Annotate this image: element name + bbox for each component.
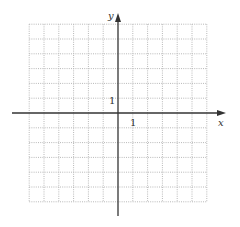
x-axis-arrow-icon xyxy=(217,110,226,116)
x-tick-label: 1 xyxy=(130,117,136,128)
coordinate-plane: x y 1 1 xyxy=(0,0,240,227)
y-tick-label: 1 xyxy=(109,95,115,106)
x-axis-label: x xyxy=(218,117,224,128)
y-axis-label: y xyxy=(107,10,114,21)
y-axis-arrow-icon xyxy=(115,13,121,22)
y-axis xyxy=(115,13,121,216)
